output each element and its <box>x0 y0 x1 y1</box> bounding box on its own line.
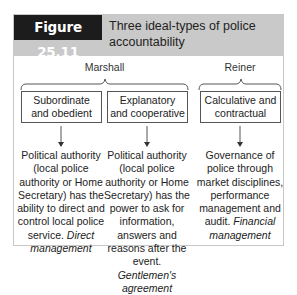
figure-panel: Figure 25.11 Three ideal-types of police… <box>13 14 284 246</box>
arrow-head-1 <box>58 142 64 147</box>
brace-marshall <box>21 79 188 90</box>
description-text: Political authority (local police author… <box>17 149 105 241</box>
brace-reiner <box>199 79 281 90</box>
type-label: Calculative and contractual <box>203 94 278 120</box>
arrow-head-3 <box>237 142 243 147</box>
type-label: Subordinate and obedient <box>24 94 99 120</box>
type-box-subordinate: Subordinate and obedient <box>21 91 102 123</box>
type-label: Explanatory and cooperative <box>110 94 185 120</box>
type-box-explanatory: Explanatory and cooperative <box>107 91 188 123</box>
type-description-explanatory: Political authority (local police author… <box>102 149 192 295</box>
type-box-calculative: Calculative and contractual <box>200 91 281 123</box>
arrow-head-2 <box>144 142 150 147</box>
type-description-subordinate: Political authority (local police author… <box>16 149 106 255</box>
type-description-calculative: Governance of police through market disc… <box>195 149 285 242</box>
description-term: Gentlemen's agreement <box>118 269 177 294</box>
description-text: Political authority (local police author… <box>104 149 190 267</box>
